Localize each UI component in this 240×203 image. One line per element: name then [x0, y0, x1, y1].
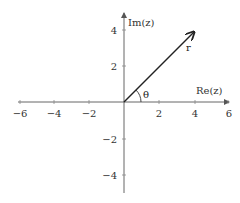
y-tick-label: −4	[102, 170, 117, 181]
x-tick-label: 4	[192, 108, 198, 119]
x-tick-label: −2	[82, 108, 97, 119]
x-tick-label: 2	[156, 108, 162, 119]
y-tick-label: 2	[111, 61, 117, 72]
vector-label: r	[186, 42, 191, 53]
x-axis-label: Re(z)	[196, 85, 223, 96]
x-tick-label: −6	[13, 108, 28, 119]
angle-arc	[136, 90, 141, 102]
x-tick-label: 6	[226, 108, 232, 119]
y-tick-label: 4	[111, 25, 117, 36]
vector-r	[124, 32, 194, 102]
x-tick-label: −4	[47, 108, 62, 119]
y-tick-label: −2	[102, 134, 117, 145]
y-axis-label: Im(z)	[128, 17, 155, 28]
complex-plane-diagram: −6 −4 −2 2 4 6 4 2 −2 −4 Im(z) Re(z) r θ	[0, 0, 240, 203]
angle-label: θ	[143, 89, 149, 100]
